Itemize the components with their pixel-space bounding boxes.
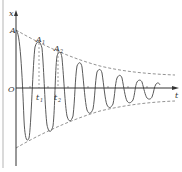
peak2-label: A: [53, 44, 60, 53]
t1-subscript: 1: [40, 97, 43, 103]
origin-label: O: [8, 85, 15, 94]
damped-oscillation-diagram: x t O A A 1 A 2 t 1 t 2: [0, 0, 182, 172]
y-axis-arrow-icon: [14, 10, 18, 16]
lower-envelope: [16, 101, 175, 148]
t2-subscript: 2: [57, 97, 61, 103]
peak2-subscript: 2: [59, 48, 63, 54]
peak1-label: A: [35, 35, 42, 44]
amplitude-label: A: [9, 26, 16, 35]
y-axis-label: x: [9, 9, 14, 18]
t-axis-arrow-icon: [172, 86, 179, 90]
oscillation-curve: [16, 30, 160, 140]
t-axis-label: t: [175, 91, 179, 100]
peak1-subscript: 1: [42, 39, 45, 45]
